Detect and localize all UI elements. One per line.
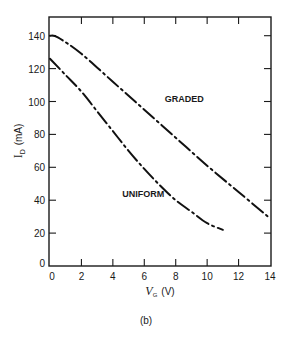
series-label-graded: GRADED (165, 94, 205, 104)
y-tick-label: 20 (34, 228, 46, 239)
x-tick-label: 10 (202, 271, 214, 282)
svg-text:VG(V): VG(V) (145, 284, 174, 298)
y-tick-label: 60 (34, 162, 46, 173)
y-axis-label-unit: (mA) (13, 124, 24, 146)
y-tick-label: 120 (28, 64, 45, 75)
x-axis-label: VG(V) (145, 284, 174, 298)
x-tick-label: 14 (264, 271, 276, 282)
series-label-uniform: UNIFORM (122, 189, 164, 199)
x-tick-label: 0 (49, 271, 55, 282)
y-tick-label: 140 (28, 31, 45, 42)
y-tick-label: 100 (28, 97, 45, 108)
y-tick-label: 0 (39, 258, 45, 269)
series-labels: GRADEDUNIFORM (122, 94, 204, 199)
y-tick-label: 40 (34, 195, 46, 206)
y-tick-label: 80 (34, 129, 46, 140)
x-tick-label: 2 (79, 271, 85, 282)
curve-uniform (50, 59, 223, 230)
x-tick-label: 4 (110, 271, 116, 282)
x-axis-label-unit: (V) (161, 286, 174, 297)
y-axis-label-sub: D (19, 149, 26, 154)
x-axis-label-sub: G (153, 292, 158, 298)
chart: 02468101214020406080100120140 GRADEDUNIF… (0, 0, 285, 338)
axis-ticks: 02468101214020406080100120140 (28, 17, 276, 282)
figure-caption: (b) (140, 315, 152, 326)
x-tick-label: 6 (142, 271, 148, 282)
x-tick-label: 12 (233, 271, 245, 282)
svg-text:ID(mA): ID(mA) (11, 124, 26, 159)
data-curves (50, 35, 270, 229)
y-axis-label: ID(mA) (11, 124, 26, 159)
x-tick-label: 8 (173, 271, 179, 282)
